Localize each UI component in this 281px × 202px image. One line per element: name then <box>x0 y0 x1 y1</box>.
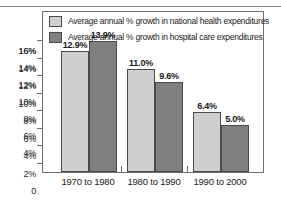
y-label-16: 16% <box>0 47 36 56</box>
y-axis-labels: 16% 14% 12% 10% 8% 6% 4% 2% 0 <box>0 11 36 173</box>
legend-item-hospital-care[interactable]: Average annual % growth in hospital care… <box>49 30 261 44</box>
y-label-14: 14% <box>0 65 36 74</box>
bar-national-health-1970-1980[interactable] <box>61 51 89 172</box>
top-divider-rule <box>0 6 281 7</box>
legend-item-national-health[interactable]: Average annual % growth in national heal… <box>49 14 261 28</box>
x-tick-label-1980-1990: 1980 to 1990 <box>116 176 192 187</box>
legend-label-national-health: Average annual % growth in national heal… <box>68 16 269 26</box>
bar-hospital-care-1980-1990[interactable] <box>155 82 183 172</box>
y-label-0: 0 <box>0 187 36 196</box>
bar-label-national-health-1980-1990: 11.0% <box>119 59 163 68</box>
y-label-12: 12% <box>0 82 36 91</box>
bar-hospital-care-1990-2000[interactable] <box>221 125 249 172</box>
x-tick-label-1990-2000: 1990 to 2000 <box>182 176 258 187</box>
x-axis: 1970 to 1980 1980 to 1990 1990 to 2000 <box>42 176 264 192</box>
y-label-10: 10% <box>0 100 36 109</box>
bar-label-hospital-care-1980-1990: 9.6% <box>147 72 191 81</box>
x-tick-label-1970-1980: 1970 to 1980 <box>50 176 126 187</box>
bar-label-national-health-1990-2000: 6.4% <box>185 102 229 111</box>
legend: Average annual % growth in national heal… <box>49 14 261 46</box>
y-label-6: 6% <box>0 135 36 144</box>
legend-swatch-dark-gray-icon <box>49 32 62 43</box>
bar-hospital-care-1970-1980[interactable] <box>89 41 117 172</box>
plot-frame: 12.9% 13.9% 11.0% 9.6% 6.4% 5.0% <box>42 11 264 173</box>
chart-figure: 16% 14% 12% 10% 8% 6% 4% 16% 14% 12% 10%… <box>0 0 281 202</box>
legend-swatch-light-gray-icon <box>49 16 62 27</box>
bar-national-health-1980-1990[interactable] <box>127 69 155 173</box>
legend-label-hospital-care: Average annual % growth in hospital care… <box>68 32 263 42</box>
y-label-4: 4% <box>0 152 36 161</box>
y-label-8: 8% <box>0 117 36 126</box>
y-label-2: 2% <box>0 170 36 179</box>
group-separator-tick-1 <box>121 166 122 172</box>
group-separator-tick-2 <box>187 166 188 172</box>
bar-label-hospital-care-1990-2000: 5.0% <box>213 115 257 124</box>
